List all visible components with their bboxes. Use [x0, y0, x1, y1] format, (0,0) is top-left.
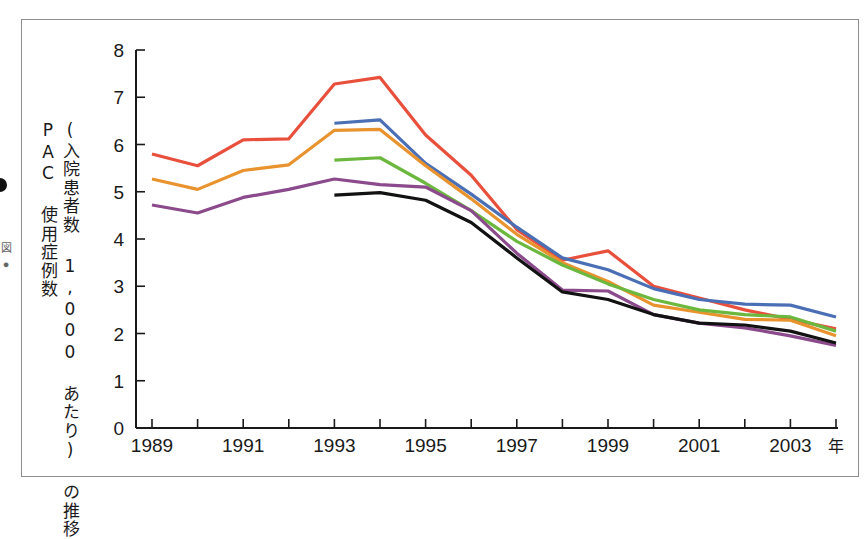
y-axis-ticks: 012345678 [113, 40, 145, 439]
y-tick-label: 7 [113, 87, 124, 108]
x-tick-label: 2003 [769, 435, 811, 456]
x-tick-label: 1997 [496, 435, 538, 456]
y-tick-label: 1 [113, 371, 124, 392]
x-tick-label: 1991 [222, 435, 264, 456]
data-series-group [152, 77, 836, 345]
y-tick-label: 8 [113, 40, 124, 61]
x-axis-ticks: 19891991199319951997199920012003 [131, 419, 836, 456]
x-tick-label: 1993 [313, 435, 355, 456]
x-tick-label: 2001 [678, 435, 720, 456]
y-tick-label: 4 [113, 229, 124, 250]
series-red [152, 77, 836, 328]
y-tick-label: 0 [113, 418, 124, 439]
x-tick-label: 1999 [587, 435, 629, 456]
series-blue [334, 120, 836, 317]
y-tick-label: 3 [113, 276, 124, 297]
x-tick-label: 1995 [404, 435, 446, 456]
y-tick-label: 5 [113, 182, 124, 203]
x-axis-unit-label: 年 [828, 437, 844, 456]
y-tick-label: 6 [113, 135, 124, 156]
y-tick-label: 2 [113, 324, 124, 345]
x-tick-label: 1989 [131, 435, 173, 456]
